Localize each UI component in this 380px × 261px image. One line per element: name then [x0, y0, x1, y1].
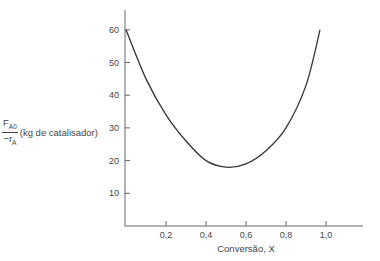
y-tick-label: 20 — [109, 156, 119, 166]
axes — [125, 10, 363, 226]
x-axis-title: Conversão, X — [217, 243, 275, 254]
data-curve — [126, 30, 320, 167]
x-tick-label: 1,0 — [320, 230, 333, 240]
y-tick-label: 30 — [109, 123, 119, 133]
x-tick-label: 0,8 — [280, 230, 293, 240]
x-ticks: 0,20,40,60,81,0 — [160, 221, 333, 240]
y-axis-unit: (kg de catalisador) — [20, 127, 98, 138]
y-tick-label: 60 — [109, 25, 119, 35]
y-axis-title: FA0 −rA (kg de catalisador) — [2, 117, 98, 148]
y-tick-label: 10 — [109, 188, 119, 198]
x-tick-label: 0,2 — [160, 230, 173, 240]
y-tick-label: 40 — [109, 90, 119, 100]
y-axis-numerator: FA0 — [2, 117, 18, 133]
x-tick-label: 0,6 — [240, 230, 253, 240]
y-ticks: 102030405060 — [109, 25, 130, 199]
y-axis-denominator: −rA — [3, 133, 16, 148]
y-tick-label: 50 — [109, 58, 119, 68]
x-tick-label: 0,4 — [200, 230, 213, 240]
y-axis-fraction: FA0 −rA — [2, 117, 18, 148]
